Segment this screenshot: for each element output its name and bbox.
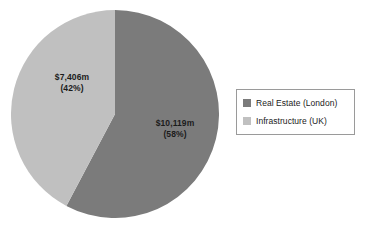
pie-chart-graphic — [11, 10, 219, 218]
chart-legend: Real Estate (London) Infrastructure (UK) — [236, 89, 355, 135]
legend-item-label: Real Estate (London) — [256, 98, 337, 108]
legend-swatch-icon — [243, 117, 251, 125]
legend-item-real-estate[interactable]: Real Estate (London) — [243, 96, 349, 110]
legend-item-infrastructure[interactable]: Infrastructure (UK) — [243, 114, 349, 128]
legend-item-label: Infrastructure (UK) — [256, 116, 327, 126]
legend-swatch-icon — [243, 99, 251, 107]
pie-chart-figure: $7,406m (42%) $10,119m (58%) Real Estate… — [0, 0, 373, 228]
pie-svg — [11, 10, 219, 218]
